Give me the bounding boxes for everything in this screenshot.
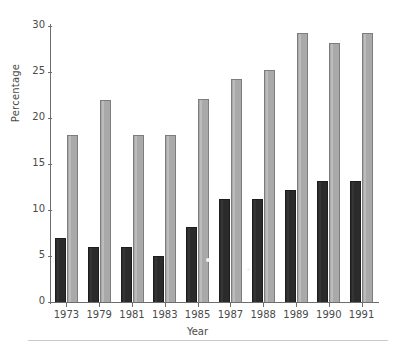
bar [198,99,209,302]
y-axis-tick: 20 [0,118,52,119]
x-axis-tick-mark [230,303,231,307]
x-axis-tick-label: 1983 [148,309,182,320]
bar-chart-figure: Percentage 051015202530 1973197919811983… [0,0,395,346]
bar [231,79,242,302]
y-axis-tick-label: 10 [21,203,45,214]
x-axis-tick-label: 1981 [115,309,149,320]
bar [297,33,308,302]
x-axis-tick-label: 1990 [312,309,346,320]
y-axis-tick: 25 [0,72,52,73]
bar [121,247,132,302]
y-axis-tick-label: 0 [21,295,45,306]
bar [362,33,373,302]
x-axis-tick-label: 1979 [82,309,116,320]
x-axis-title: Year [0,326,395,337]
x-axis-tick-label: 1988 [246,309,280,320]
y-axis-tick: 5 [0,256,52,257]
bar [153,256,164,302]
bar [133,135,144,302]
y-axis-tick: 10 [0,210,52,211]
x-axis-tick-mark [132,303,133,307]
x-axis-tick-mark [263,303,264,307]
y-axis-tick-label: 15 [21,157,45,168]
y-axis-tick: 30 [0,26,52,27]
x-axis-tick-mark [362,303,363,307]
x-axis-tick-label: 1985 [181,309,215,320]
scan-speck [206,258,210,262]
bar [329,43,340,302]
x-axis-tick-label: 1987 [213,309,247,320]
x-axis-tick-mark [329,303,330,307]
x-axis-tick-mark [165,303,166,307]
x-axis-tick-mark [296,303,297,307]
y-axis-tick-mark [48,302,52,303]
x-axis-tick-mark [198,303,199,307]
bar [186,227,197,302]
y-axis-tick-label: 5 [21,249,45,260]
bar [88,247,99,302]
bar [252,199,263,302]
y-axis-tick-label: 30 [21,19,45,30]
bar [165,135,176,302]
bar [350,181,361,302]
y-axis-tick-label: 25 [21,65,45,76]
bar [67,135,78,302]
bar [219,199,230,302]
bar [55,238,66,302]
bar [264,70,275,302]
plot-area [50,26,378,302]
page-rule [28,340,388,341]
y-axis-tick: 0 [0,302,52,303]
bar [100,100,111,302]
x-axis-tick-mark [66,303,67,307]
x-axis-tick-label: 1991 [345,309,379,320]
y-axis-title: Percentage [10,43,28,143]
x-axis-tick-label: 1989 [279,309,313,320]
y-axis-tick: 15 [0,164,52,165]
bar [317,181,328,302]
x-axis-tick-mark [99,303,100,307]
scan-speck [247,268,250,271]
bar [285,190,296,302]
x-axis-tick-label: 1973 [49,309,83,320]
y-axis-tick-label: 20 [21,111,45,122]
